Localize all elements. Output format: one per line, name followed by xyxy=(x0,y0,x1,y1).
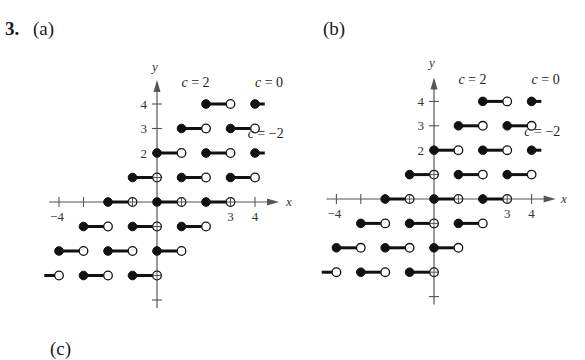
x-tick-label: 3 xyxy=(227,209,234,224)
closed-endpoint xyxy=(381,195,390,204)
open-endpoint xyxy=(357,244,366,253)
closed-endpoint xyxy=(226,173,235,182)
closed-endpoint xyxy=(251,100,260,109)
open-endpoint xyxy=(503,146,512,155)
series-annotation: c = 0 xyxy=(255,75,283,90)
open-endpoint xyxy=(79,247,88,256)
closed-endpoint xyxy=(405,268,414,277)
open-endpoint xyxy=(104,222,113,231)
y-tick-label: 2 xyxy=(141,146,148,161)
closed-endpoint xyxy=(55,247,64,256)
graph-panel-a: 34−4234xyc = 2c = 0c = −2 xyxy=(44,59,292,308)
open-endpoint xyxy=(332,268,341,277)
closed-endpoint xyxy=(128,222,137,231)
open-endpoint xyxy=(128,247,137,256)
x-tick-label: 3 xyxy=(504,206,511,221)
closed-endpoint xyxy=(202,198,211,207)
closed-endpoint xyxy=(430,244,439,253)
closed-endpoint xyxy=(128,173,137,182)
x-tick-label: −4 xyxy=(50,209,64,224)
closed-endpoint xyxy=(153,149,162,158)
closed-endpoint xyxy=(357,268,366,277)
closed-endpoint xyxy=(454,219,463,228)
closed-endpoint xyxy=(430,146,439,155)
y-tick-label: 4 xyxy=(418,94,425,109)
open-endpoint xyxy=(202,222,211,231)
open-endpoint xyxy=(104,271,113,280)
graph-panel-b: 34−4234xyc = 2c = 0c = −2 xyxy=(322,55,567,305)
closed-endpoint xyxy=(503,122,512,131)
open-endpoint xyxy=(503,97,512,106)
series-annotation: c = 2 xyxy=(458,72,486,87)
closed-endpoint xyxy=(251,149,260,158)
open-endpoint xyxy=(251,173,260,182)
closed-endpoint xyxy=(479,195,488,204)
series-annotation: c = −2 xyxy=(248,126,284,141)
x-tick-label: −4 xyxy=(327,206,341,221)
closed-endpoint xyxy=(332,244,341,253)
closed-endpoint xyxy=(177,124,186,133)
closed-endpoint xyxy=(405,219,414,228)
open-endpoint xyxy=(405,244,414,253)
y-tick-label: 3 xyxy=(141,121,148,136)
closed-endpoint xyxy=(128,271,137,280)
closed-endpoint xyxy=(202,149,211,158)
y-tick-label: 3 xyxy=(418,118,425,133)
closed-endpoint xyxy=(104,198,113,207)
closed-endpoint xyxy=(479,97,488,106)
closed-endpoint xyxy=(503,170,512,179)
closed-endpoint xyxy=(177,173,186,182)
closed-endpoint xyxy=(202,100,211,109)
open-endpoint xyxy=(177,149,186,158)
open-endpoint xyxy=(454,244,463,253)
closed-endpoint xyxy=(226,124,235,133)
series-annotation: c = 0 xyxy=(532,72,560,87)
open-endpoint xyxy=(527,170,536,179)
closed-endpoint xyxy=(104,247,113,256)
series-annotation: c = −2 xyxy=(524,124,560,139)
x-axis-label: x xyxy=(560,191,567,206)
open-endpoint xyxy=(479,122,488,131)
closed-endpoint xyxy=(79,222,88,231)
x-tick-label: 4 xyxy=(528,206,535,221)
y-axis-label: y xyxy=(150,59,158,74)
x-axis-arrow-icon xyxy=(267,199,279,206)
closed-endpoint xyxy=(454,170,463,179)
open-endpoint xyxy=(226,149,235,158)
x-axis-label: x xyxy=(285,194,292,209)
closed-endpoint xyxy=(527,97,536,106)
y-axis-label: y xyxy=(427,55,435,70)
closed-endpoint xyxy=(79,271,88,280)
open-endpoint xyxy=(226,100,235,109)
open-endpoint xyxy=(202,173,211,182)
series-annotation: c = 2 xyxy=(182,75,210,90)
x-tick-label: 4 xyxy=(252,209,259,224)
closed-endpoint xyxy=(479,146,488,155)
open-endpoint xyxy=(454,146,463,155)
open-endpoint xyxy=(381,268,390,277)
y-axis-arrow-icon xyxy=(431,77,438,89)
open-endpoint xyxy=(479,219,488,228)
open-endpoint xyxy=(202,124,211,133)
y-tick-label: 2 xyxy=(418,143,425,158)
open-endpoint xyxy=(479,170,488,179)
closed-endpoint xyxy=(177,222,186,231)
closed-endpoint xyxy=(405,170,414,179)
y-tick-label: 4 xyxy=(141,97,148,112)
closed-endpoint xyxy=(527,146,536,155)
closed-endpoint xyxy=(381,244,390,253)
closed-endpoint xyxy=(454,122,463,131)
closed-endpoint xyxy=(153,247,162,256)
open-endpoint xyxy=(381,219,390,228)
y-axis-arrow-icon xyxy=(154,80,161,92)
open-endpoint xyxy=(55,271,64,280)
open-endpoint xyxy=(177,247,186,256)
closed-endpoint xyxy=(153,198,162,207)
closed-endpoint xyxy=(357,219,366,228)
closed-endpoint xyxy=(430,195,439,204)
x-axis-arrow-icon xyxy=(544,196,556,203)
